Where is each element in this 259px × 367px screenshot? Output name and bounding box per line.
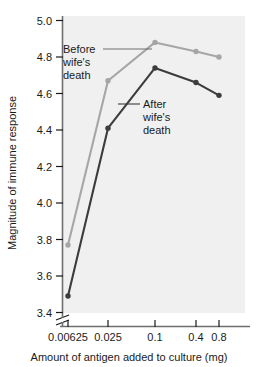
- before-label-line2: wife's: [62, 56, 91, 68]
- y-tick-labels: 3.43.63.84.04.24.44.64.85.0: [37, 15, 52, 319]
- x-tick-label: 0.1: [147, 331, 162, 343]
- y-tick-label: 5.0: [37, 15, 52, 27]
- y-tick-label: 4.0: [37, 197, 52, 209]
- before-label-line3: death: [63, 69, 91, 81]
- immune-response-line-chart: 3.43.63.84.04.24.44.64.85.0 0.006250.025…: [0, 0, 259, 367]
- after-label-line1: After: [143, 98, 167, 110]
- y-tick-label: 4.4: [37, 124, 52, 136]
- after-label-line2: wife's: [142, 111, 171, 123]
- y-tick-label: 3.8: [37, 234, 52, 246]
- y-tick-label: 3.4: [37, 307, 52, 319]
- data-point: [65, 242, 70, 247]
- data-point: [193, 80, 198, 85]
- x-tick-label: 0.00625: [48, 331, 88, 343]
- data-point: [105, 125, 110, 130]
- x-tick-label: 0.4: [188, 331, 203, 343]
- data-point: [152, 65, 157, 70]
- x-tick-label: 0.025: [94, 331, 122, 343]
- y-tick-label: 4.6: [37, 88, 52, 100]
- plot-panel: [63, 16, 245, 313]
- data-point: [216, 54, 221, 59]
- y-tick-label: 4.2: [37, 161, 52, 173]
- x-tick-label: 0.8: [211, 331, 226, 343]
- data-point: [152, 40, 157, 45]
- data-point: [105, 78, 110, 83]
- y-tick-label: 3.6: [37, 270, 52, 282]
- data-point: [193, 49, 198, 54]
- after-label-line3: death: [143, 124, 171, 136]
- y-tick-label: 4.8: [37, 51, 52, 63]
- y-axis-title: Magnitude of immune response: [6, 96, 18, 250]
- before-label-line1: Before: [63, 43, 95, 55]
- chart-svg: 3.43.63.84.04.24.44.64.85.0 0.006250.025…: [0, 0, 259, 367]
- data-point: [65, 293, 70, 298]
- x-tick-labels: 0.006250.0250.10.40.8: [48, 331, 227, 343]
- data-point: [216, 93, 221, 98]
- x-axis-title: Amount of antigen added to culture (mg): [31, 351, 228, 363]
